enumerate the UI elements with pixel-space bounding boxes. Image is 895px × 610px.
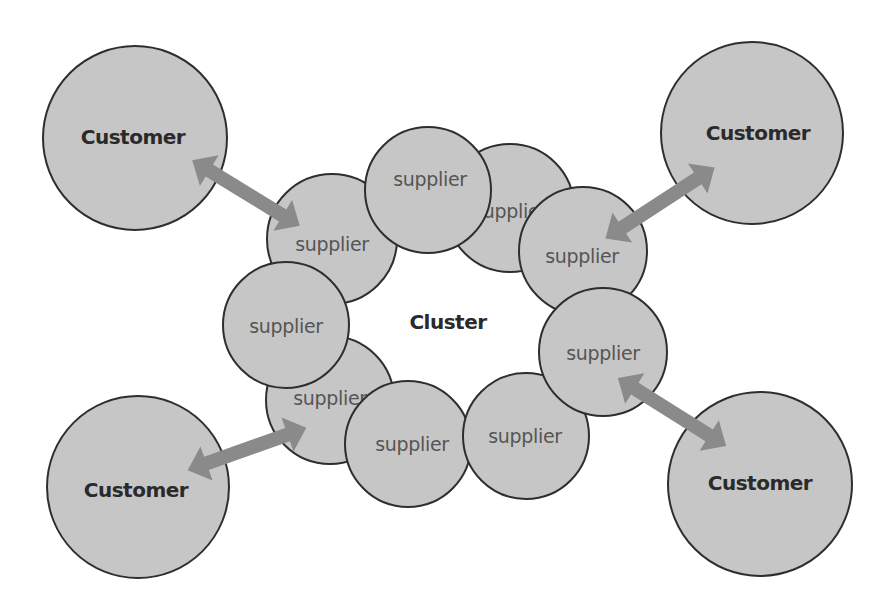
customer-label: Customer: [81, 125, 186, 149]
customer-node-top-left: Customer: [43, 46, 227, 230]
customer-label: Customer: [708, 471, 813, 495]
customer-node-top-right: Customer: [661, 42, 843, 224]
supplier-node-left: supplier: [223, 262, 349, 388]
supplier-label: supplier: [293, 387, 367, 409]
cluster-diagram: Customer Customer Customer Customer supp…: [0, 0, 895, 610]
supplier-label: supplier: [566, 342, 640, 364]
supplier-label: supplier: [375, 433, 449, 455]
customer-node-bottom-left: Customer: [47, 396, 229, 578]
supplier-node-bottom-left: supplier: [345, 381, 471, 507]
supplier-label: supplier: [488, 425, 562, 447]
supplier-label: supplier: [295, 233, 369, 255]
supplier-circle: [365, 127, 491, 253]
customer-label: Customer: [84, 478, 189, 502]
cluster-label: Cluster: [409, 310, 487, 334]
customer-label: Customer: [706, 121, 811, 145]
supplier-label: supplier: [545, 245, 619, 267]
supplier-label: supplier: [393, 168, 467, 190]
supplier-label: supplier: [249, 315, 323, 337]
supplier-node-top: supplier: [365, 127, 491, 253]
